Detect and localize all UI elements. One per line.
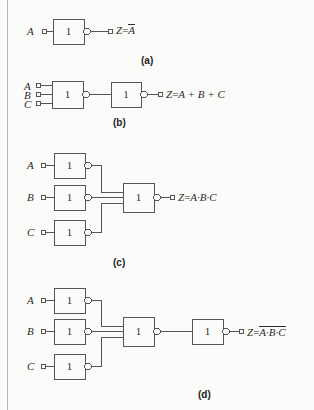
output-pin-b [158,92,163,97]
gate-label-c2: 1 [67,191,73,203]
gate-label-b2: 1 [123,88,129,100]
input-pin-c-a [41,163,46,168]
gate-label-c4: 1 [136,191,142,203]
input-pin-d-b [41,329,46,334]
input-pin-b-a [36,83,40,87]
input-pin-c-c [41,230,46,235]
input-label-d-c: C [27,361,34,372]
bubble-c4 [154,194,160,200]
bubble-c1 [85,162,91,168]
input-label-c-c: C [27,227,34,238]
bubble-d5 [223,328,229,334]
gate-label-d3: 1 [67,360,73,372]
output-expr-b: A + B + C [178,88,224,100]
input-pin-b-c [36,101,40,105]
input-label-c-b: B [27,192,34,203]
bubble-d1 [85,297,91,303]
bubble-b2 [141,91,147,97]
output-expr-a: A [128,24,135,37]
gate-label-d1: 1 [67,294,73,306]
input-label-d-a: A [27,295,34,306]
input-label-c-a: A [27,160,34,171]
output-expression-d: Z=A·B·C [247,326,286,339]
input-pin-d-c [41,364,46,369]
input-label-b-c: C [24,99,31,110]
output-pin-d [239,329,244,334]
input-pin-b-b [36,92,40,96]
input-pin-d-a [41,298,46,303]
bubble-c3 [85,229,91,235]
input-pin-a-a [42,29,47,34]
gate-label-c3: 1 [67,226,73,238]
gate-label-a1: 1 [66,25,72,37]
input-pin-c-b [41,195,46,200]
circuit-drawing: 1 1 1 1 1 1 1 1 1 1 1 1 [0,0,314,410]
bubble-b1 [83,91,89,97]
bubble-a1 [84,28,90,34]
panel-caption-c: (c) [113,258,125,268]
wire-d-route-bot [91,337,123,367]
panel-caption-d: (d) [198,390,211,400]
gate-label-c1: 1 [67,159,73,171]
gate-label-d2: 1 [67,325,73,337]
output-expression-c: Z=A·B·C [178,192,217,203]
wire-d-route-top [91,301,123,327]
bubble-d2 [85,328,91,334]
gate-label-d4: 1 [136,325,142,337]
input-label-a-a: A [27,26,34,37]
panel-caption-b: (b) [113,118,126,128]
wire-c-route-bot [91,203,123,233]
wire-c-route-top [91,166,123,193]
output-expr-d: A·B·C [259,326,285,339]
output-pin-a [108,29,113,34]
output-expression-a: Z=A [116,24,135,37]
figure-canvas: 1 1 1 1 1 1 1 1 1 1 1 1 A Z=A (a) A B C … [0,0,314,410]
gate-label-d5: 1 [205,325,211,337]
output-expr-c: A·B·C [190,191,216,203]
gate-label-b1: 1 [65,88,71,100]
bubble-d4 [154,328,160,334]
input-label-d-b: B [27,326,34,337]
bubble-d3 [85,363,91,369]
bubble-c2 [85,194,91,200]
panel-caption-a: (a) [141,56,153,66]
output-pin-c [170,195,175,200]
output-expression-b: Z=A + B + C [166,89,225,100]
